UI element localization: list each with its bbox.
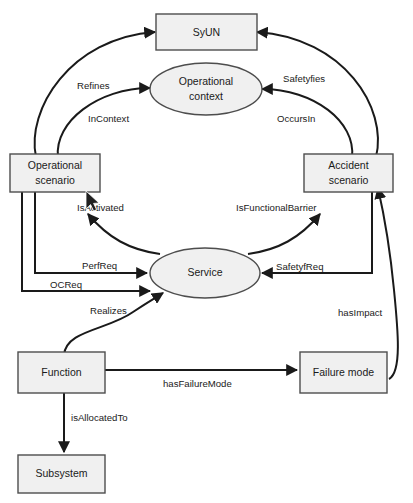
node-failure-mode-label: Failure mode xyxy=(313,366,374,378)
edge-label-ocreq: OCReq xyxy=(50,279,82,290)
node-service[interactable]: Service xyxy=(150,248,260,298)
node-subsystem[interactable]: Subsystem xyxy=(18,455,105,493)
node-operational-scenario-label-line1: Operational xyxy=(28,159,82,171)
edge-label-safetyfies: Safetyfies xyxy=(283,73,325,84)
node-service-label: Service xyxy=(187,266,222,278)
node-accident-scenario-label-line2: scenario xyxy=(329,174,369,186)
edge-label-hasimpact: hasImpact xyxy=(338,307,383,318)
edge-label-hasfailuremode: hasFailureMode xyxy=(163,378,232,389)
node-function[interactable]: Function xyxy=(18,352,105,393)
edge-realizes-line xyxy=(64,293,163,355)
edge-isfunctionalbarrier-line xyxy=(248,214,320,254)
edge-label-occursin: OccursIn xyxy=(277,113,315,124)
edge-label-perfreq: PerfReq xyxy=(82,260,117,271)
edge-label-refines: Refines xyxy=(77,80,110,91)
edge-label-safetyfreq: SafetyfReq xyxy=(276,261,323,272)
diagram-svg: SyUN Operational context Operational sce… xyxy=(0,0,413,503)
edge-hasimpact-line xyxy=(378,188,398,379)
edge-label-incontext: InContext xyxy=(88,113,129,124)
node-operational-scenario-label-line2: scenario xyxy=(35,174,75,186)
edge-label-isfunctionalbarrier: IsFunctionalBarrier xyxy=(236,202,317,213)
node-accident-scenario-label-line1: Accident xyxy=(328,159,368,171)
edge-refines-line xyxy=(35,32,155,157)
node-accident-scenario[interactable]: Accident scenario xyxy=(304,154,393,192)
node-syun[interactable]: SyUN xyxy=(156,14,257,50)
edge-label-isactivated: IsActivated xyxy=(77,202,124,213)
node-operational-context[interactable]: Operational context xyxy=(150,63,262,115)
node-operational-context-label-line1: Operational xyxy=(179,75,233,87)
edge-isactivated-line xyxy=(88,214,160,254)
node-subsystem-label: Subsystem xyxy=(36,467,88,479)
node-function-label: Function xyxy=(41,366,81,378)
edge-safetyfies-line xyxy=(257,32,378,157)
node-operational-context-label-line2: context xyxy=(189,90,223,102)
diagram-canvas: SyUN Operational context Operational sce… xyxy=(0,0,413,503)
node-syun-label: SyUN xyxy=(193,26,220,38)
node-failure-mode[interactable]: Failure mode xyxy=(300,352,387,393)
edge-label-isallocatedto: isAllocatedTo xyxy=(71,412,128,423)
edge-label-realizes: Realizes xyxy=(90,305,127,316)
node-operational-scenario[interactable]: Operational scenario xyxy=(10,154,100,192)
